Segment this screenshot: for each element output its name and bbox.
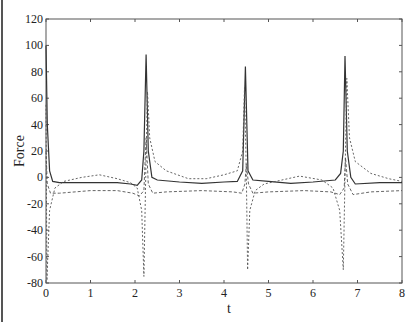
y-tick-label: -80 [27, 276, 43, 290]
y-tick-label: 40 [31, 118, 43, 132]
y-tick-label: -20 [27, 197, 43, 211]
y-tick-label: 100 [25, 38, 43, 52]
y-tick-label: 20 [31, 144, 43, 158]
x-tick-label: 5 [266, 286, 272, 300]
y-tick-label: 60 [31, 91, 43, 105]
x-tick-label: 1 [88, 286, 94, 300]
y-tick-label: 80 [31, 65, 43, 79]
x-tick-label: 6 [310, 286, 316, 300]
force-chart: -80-60-40-20020406080100120 012345678 t … [0, 0, 419, 322]
y-axis-label: Force [12, 135, 27, 167]
x-tick-label: 7 [355, 286, 361, 300]
series-lines [46, 45, 402, 280]
y-tick-label: 0 [37, 170, 43, 184]
x-tick-label: 0 [43, 286, 49, 300]
x-tick-label: 4 [221, 286, 227, 300]
plot-frame [46, 19, 402, 283]
series-line-dash-dot [46, 78, 402, 280]
series-line-dashed [46, 138, 402, 196]
y-tick-label: -40 [27, 223, 43, 237]
y-tick-label: -60 [27, 250, 43, 264]
x-tick-label: 2 [132, 286, 138, 300]
x-tick-label: 8 [399, 286, 405, 300]
x-axis: 012345678 [43, 19, 405, 300]
x-tick-label: 3 [177, 286, 183, 300]
y-tick-label: 120 [25, 12, 43, 26]
series-line-solid [46, 45, 402, 185]
x-axis-label: t [227, 301, 231, 316]
